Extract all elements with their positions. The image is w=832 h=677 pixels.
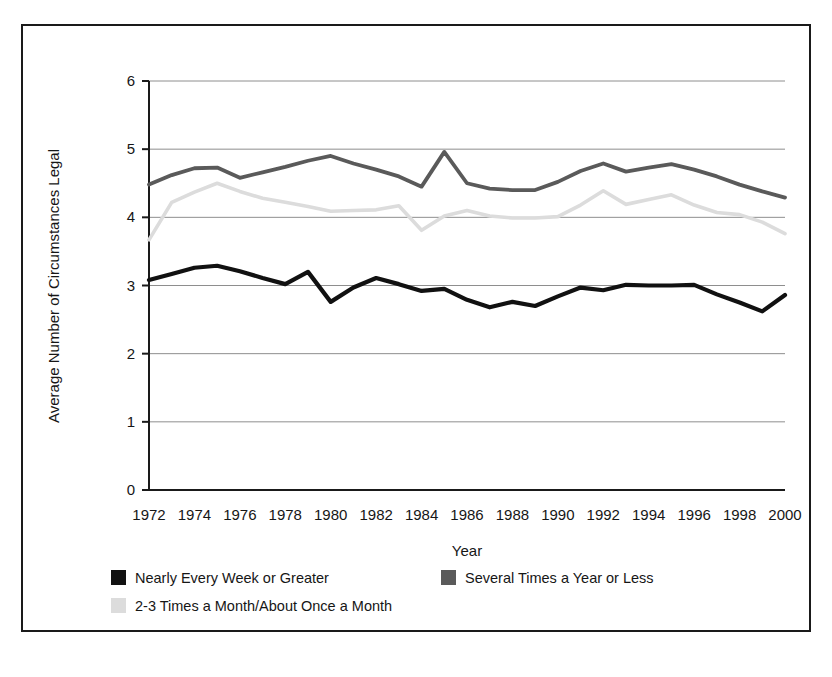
legend-swatch-2 — [111, 598, 126, 613]
y-tick-4: 4 — [127, 208, 135, 225]
x-tick-1988: 1988 — [496, 506, 529, 523]
y-tick-0: 0 — [127, 481, 135, 498]
x-tick-1998: 1998 — [723, 506, 756, 523]
x-tick-1992: 1992 — [587, 506, 620, 523]
data-series-group — [149, 152, 785, 312]
gridlines-group — [149, 81, 785, 422]
x-tick-1980: 1980 — [314, 506, 347, 523]
series-line-2 — [149, 266, 785, 312]
x-tick-2000: 2000 — [768, 506, 801, 523]
y-tick-1: 1 — [127, 413, 135, 430]
x-tick-1974: 1974 — [178, 506, 211, 523]
y-tick-2: 2 — [127, 345, 135, 362]
x-axis-title: Year — [452, 542, 482, 559]
x-tick-1982: 1982 — [359, 506, 392, 523]
chart-plot-wrapper: 0123456 19721974197619781980198219841986… — [23, 26, 813, 634]
y-axis-tick-labels: 0123456 — [127, 72, 149, 498]
y-axis-title: Average Number of Circumstances Legal — [45, 149, 62, 423]
x-tick-1976: 1976 — [223, 506, 256, 523]
legend-label-1: Several Times a Year or Less — [465, 570, 654, 586]
x-tick-1986: 1986 — [450, 506, 483, 523]
legend-swatch-1 — [441, 570, 456, 585]
line-chart: 0123456 19721974197619781980198219841986… — [23, 26, 813, 634]
chart-figure-frame: 0123456 19721974197619781980198219841986… — [21, 24, 811, 632]
x-tick-1990: 1990 — [541, 506, 574, 523]
x-axis-tick-labels: 1972197419761978198019821984198619881990… — [132, 506, 801, 523]
legend-label-0: Nearly Every Week or Greater — [135, 570, 329, 586]
x-tick-1984: 1984 — [405, 506, 438, 523]
y-tick-3: 3 — [127, 277, 135, 294]
x-tick-1996: 1996 — [677, 506, 710, 523]
x-tick-1994: 1994 — [632, 506, 665, 523]
x-tick-1978: 1978 — [269, 506, 302, 523]
page-caption-smudge — [18, 648, 518, 666]
legend-swatch-0 — [111, 570, 126, 585]
x-tick-1972: 1972 — [132, 506, 165, 523]
y-tick-5: 5 — [127, 140, 135, 157]
series-line-0 — [149, 152, 785, 198]
y-tick-6: 6 — [127, 72, 135, 89]
series-line-1 — [149, 183, 785, 240]
legend-label-2: 2-3 Times a Month/About Once a Month — [135, 598, 392, 614]
chart-legend: Nearly Every Week or GreaterSeveral Time… — [111, 570, 654, 614]
